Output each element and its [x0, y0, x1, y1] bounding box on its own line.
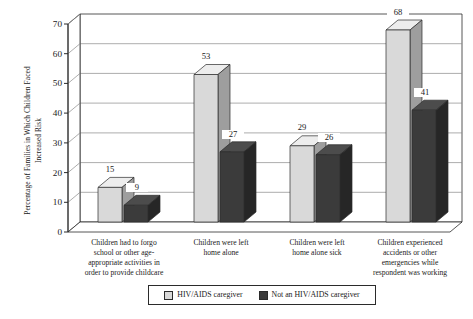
data-label-s1-c3: 29	[291, 123, 313, 132]
data-label-s1-c4: 68	[387, 8, 409, 17]
data-label-s2-c1: 9	[126, 183, 148, 192]
category-label-4: Children experienced accidents or other …	[352, 238, 468, 278]
category-label-2: Children were left home alone	[166, 238, 276, 258]
bar-series2-cat3	[316, 145, 352, 222]
legend-swatch-light	[164, 291, 173, 300]
legend: HIV/AIDS caregiver Not an HIV/AIDS careg…	[148, 285, 376, 305]
legend-item-hiv-aids-caregiver[interactable]: HIV/AIDS caregiver	[164, 291, 242, 300]
legend-label-1: HIV/AIDS caregiver	[177, 291, 242, 299]
legend-item-not-hiv-aids-caregiver[interactable]: Not an HIV/AIDS caregiver	[259, 291, 360, 300]
bar-series2-cat2	[220, 142, 256, 222]
data-label-s2-c4: 41	[414, 88, 436, 97]
data-label-s2-c3: 26	[318, 133, 340, 142]
legend-swatch-dark	[259, 291, 268, 300]
bar-group-3	[290, 136, 352, 222]
data-label-s1-c1: 15	[99, 165, 121, 174]
bar-series2-cat4	[412, 100, 448, 222]
data-label-s2-c2: 27	[222, 130, 244, 139]
data-label-s1-c2: 53	[195, 52, 217, 61]
legend-label-2: Not an HIV/AIDS caregiver	[272, 291, 360, 299]
bar-chart: Percentage of Families in Which Children…	[0, 0, 473, 319]
